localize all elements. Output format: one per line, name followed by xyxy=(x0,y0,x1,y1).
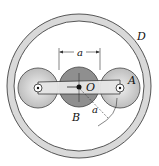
pin-left xyxy=(34,84,42,92)
planetary-gear-diagram: a O A B a D xyxy=(0,0,159,166)
label-dim-diag: a xyxy=(92,104,98,115)
pin-a xyxy=(116,84,124,92)
label-a: A xyxy=(127,74,136,87)
label-b: B xyxy=(71,111,80,124)
label-o: O xyxy=(86,81,95,94)
label-dim-top: a xyxy=(77,47,83,58)
label-d: D xyxy=(136,30,146,43)
